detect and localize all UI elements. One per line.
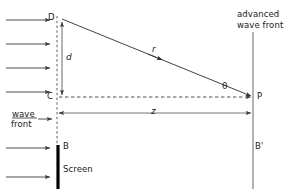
- point-label-p: P: [257, 91, 262, 102]
- variable-label-theta: θ: [222, 81, 228, 92]
- advanced-wave-front-label-line1: advanced: [237, 9, 279, 20]
- point-label-b: B: [63, 141, 69, 152]
- variable-label-r: r: [152, 44, 156, 55]
- incoming-wave-arrows: [6, 20, 52, 177]
- point-label-c: C: [47, 91, 53, 102]
- screen-label: Screen: [63, 164, 93, 175]
- physics-diagram: D C P B B' d r z θ advanced wave front w…: [0, 0, 295, 191]
- variable-label-d: d: [66, 52, 72, 63]
- wave-front-label-line2: front: [11, 119, 32, 130]
- point-label-b-prime: B': [255, 141, 263, 152]
- point-label-d: D: [48, 12, 55, 23]
- advanced-wave-front-label-line2: wave front: [237, 20, 283, 31]
- variable-label-z: z: [151, 106, 156, 117]
